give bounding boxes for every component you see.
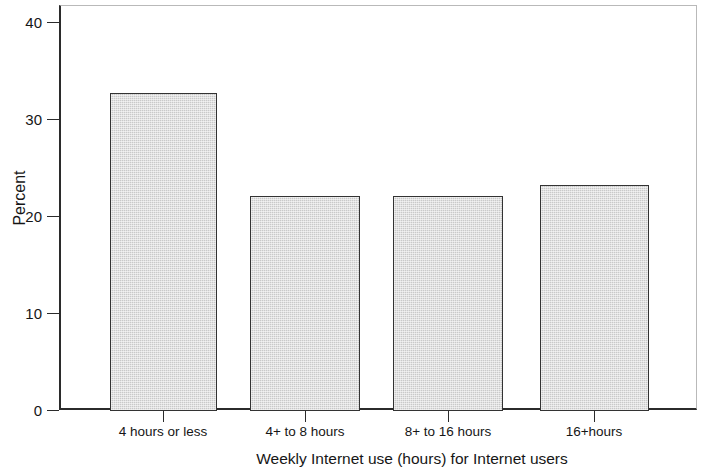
- x-tick-mark-4: [594, 411, 595, 422]
- bar-16-plus-hours: [540, 185, 649, 411]
- y-tick-mark-20: [47, 216, 59, 217]
- x-tick-mark-3: [448, 411, 449, 422]
- y-tick-label-20: 20: [2, 209, 42, 224]
- x-tick-label-4: 16+hours: [519, 424, 669, 440]
- y-tick-mark-40: [47, 22, 59, 23]
- bar-8-to-16-hours: [393, 196, 503, 411]
- y-tick-mark-10: [47, 313, 59, 314]
- x-axis-title: Weekly Internet use (hours) for Internet…: [0, 450, 702, 468]
- bar-4-to-8-hours: [250, 196, 360, 411]
- x-tick-mark-1: [163, 411, 164, 422]
- x-tick-mark-2: [305, 411, 306, 422]
- bar-4-hours-or-less: [110, 93, 217, 411]
- y-tick-label-30: 30: [2, 112, 42, 127]
- y-tick-mark-30: [47, 119, 59, 120]
- y-axis-title: Percent: [12, 148, 28, 248]
- x-tick-label-2: 4+ to 8 hours: [230, 424, 380, 440]
- y-tick-mark-0: [47, 410, 59, 411]
- x-axis-title-text: Weekly Internet use (hours) for Internet…: [256, 450, 568, 467]
- bar-chart: Percent 40 30 20 10 0 4 hours or less 4+…: [0, 0, 702, 473]
- y-tick-label-0: 0: [2, 403, 42, 418]
- x-tick-label-1: 4 hours or less: [88, 424, 238, 440]
- y-tick-label-40: 40: [2, 15, 42, 30]
- y-tick-label-10: 10: [2, 306, 42, 321]
- x-tick-label-3: 8+ to 16 hours: [373, 424, 523, 440]
